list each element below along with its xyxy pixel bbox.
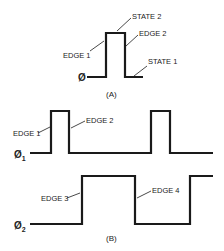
leader-edge-2 <box>126 35 138 46</box>
phi1-label: Ø1 <box>14 149 26 162</box>
figure-b: Ø1 EDGE 1 EDGE 2 Ø2 EDGE 3 EDGE 4 (B) <box>13 111 213 243</box>
label-edge-2-b: EDGE 2 <box>86 116 114 125</box>
caption-b: (B) <box>106 234 117 243</box>
leader-edge-1 <box>90 41 104 51</box>
leader-state-2 <box>117 18 131 31</box>
label-state-2: STATE 2 <box>132 12 161 21</box>
leader-state-1 <box>134 66 147 76</box>
caption-a: (A) <box>106 90 117 99</box>
timing-diagram: Ø STATE 2 EDGE 2 EDGE 1 STATE 1 (A) Ø1 E… <box>0 0 224 251</box>
label-edge-4: EDGE 4 <box>152 186 180 195</box>
pulse-waveform-a <box>87 33 143 77</box>
label-edge-2: EDGE 2 <box>139 29 167 38</box>
label-edge-1-b: EDGE 1 <box>13 129 41 138</box>
leader-edge-3 <box>67 193 80 198</box>
label-edge-1: EDGE 1 <box>63 51 91 60</box>
leader-edge-2-b <box>71 121 85 128</box>
phi1-waveform <box>30 111 213 153</box>
label-edge-3: EDGE 3 <box>41 194 69 203</box>
signal-label-phi: Ø <box>78 72 86 83</box>
label-state-1: STATE 1 <box>148 57 177 66</box>
phi2-label: Ø2 <box>14 220 26 233</box>
figure-a: Ø STATE 2 EDGE 2 EDGE 1 STATE 1 (A) <box>63 12 177 99</box>
leader-edge-4 <box>137 191 151 198</box>
